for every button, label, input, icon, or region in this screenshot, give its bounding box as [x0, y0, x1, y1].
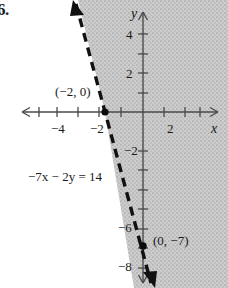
point-marker-y-intercept — [139, 242, 147, 250]
y-tick-label-pos4: 4 — [126, 28, 133, 41]
problem-number: 6. — [0, 1, 9, 18]
x-tick-label-neg4: −4 — [51, 122, 65, 135]
y-tick-label-neg6: −6 — [118, 221, 132, 234]
y-tick-label-neg8: −8 — [118, 260, 132, 273]
x-tick-label-pos2: 2 — [167, 122, 174, 135]
graph-figure: 6. y x −4 −2 2 4 2 −2 −6 −8 (−2, 0) (0, … — [0, 0, 228, 288]
x-tick-label-neg2: −2 — [90, 122, 104, 135]
x-axis-label: x — [211, 122, 217, 136]
point-marker-x-intercept — [101, 108, 108, 115]
y-tick-label-pos2: 2 — [126, 67, 133, 80]
point-label-x-intercept: (−2, 0) — [55, 85, 91, 98]
y-axis-label: y — [131, 7, 137, 21]
equation-label: −7x − 2y = 14 — [28, 170, 102, 183]
point-label-y-intercept: (0, −7) — [153, 234, 189, 247]
y-tick-label-neg2: −2 — [124, 144, 138, 157]
coordinate-plane-svg — [0, 0, 228, 288]
